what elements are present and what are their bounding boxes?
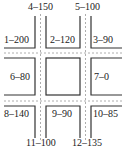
segment-label-1: 1–200 (4, 35, 29, 45)
block-center (46, 58, 80, 95)
segment-label-8: 8–140 (4, 109, 29, 119)
segment-label-7: 7–0 (94, 72, 109, 82)
segment-label-2: 2–120 (50, 35, 75, 45)
segment-label-11: 11–100 (26, 138, 56, 148)
segment-label-4: 4–150 (28, 2, 53, 12)
road-grid-diagram: 4–150 5–100 1–200 2–120 3–90 6–80 7–0 8–… (0, 0, 124, 152)
segment-label-3: 3–90 (93, 35, 113, 45)
segment-label-9: 9–90 (52, 109, 72, 119)
segment-label-10: 10–85 (93, 109, 118, 119)
segment-label-6: 6–80 (10, 72, 30, 82)
segment-label-12: 12–135 (72, 138, 102, 148)
segment-label-5: 5–100 (75, 2, 100, 12)
